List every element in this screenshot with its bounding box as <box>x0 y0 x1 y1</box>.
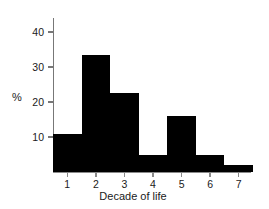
x-axis-tick <box>124 172 125 177</box>
bar <box>224 165 253 172</box>
x-axis-tick-label: 1 <box>64 179 70 190</box>
bar <box>82 55 111 172</box>
x-axis-tick-label: 4 <box>150 179 156 190</box>
x-axis-tick-label: 2 <box>93 179 99 190</box>
x-axis-tick-label: 3 <box>122 179 128 190</box>
bar <box>139 155 168 173</box>
x-axis-tick-label: 7 <box>236 179 242 190</box>
y-axis-tick-label: 30 <box>32 62 48 73</box>
bar <box>196 155 225 173</box>
y-axis-tick-label: 10 <box>32 132 48 143</box>
x-axis-tick-label: 6 <box>207 179 213 190</box>
y-axis-tick-label: 20 <box>32 97 48 108</box>
x-axis-tick <box>181 172 182 177</box>
bar <box>167 116 196 172</box>
histogram-figure: 10203040 1234567 % Decade of life <box>0 0 269 209</box>
x-axis-title: Decade of life <box>53 191 213 202</box>
y-axis-title: % <box>12 92 22 103</box>
x-axis-tick-label: 5 <box>179 179 185 190</box>
bars-layer <box>53 18 253 172</box>
x-axis-tick <box>238 172 239 177</box>
x-axis-tick <box>209 172 210 177</box>
y-axis-tick-label: 40 <box>32 27 48 38</box>
bar <box>110 93 139 172</box>
x-axis-tick <box>152 172 153 177</box>
bar <box>53 134 82 173</box>
x-axis-tick <box>67 172 68 177</box>
x-axis-tick <box>95 172 96 177</box>
